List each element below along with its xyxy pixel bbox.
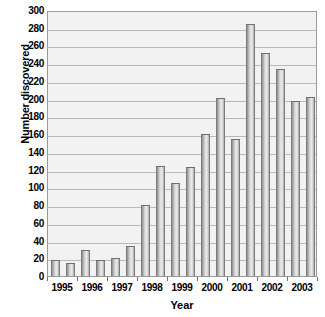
bar: [186, 167, 195, 276]
bar: [141, 205, 150, 276]
bar: [201, 134, 210, 276]
bar: [171, 183, 180, 276]
y-axis-tick-label: 100: [14, 183, 44, 193]
plot-area: [47, 11, 317, 277]
x-axis-tick-mark: [257, 277, 258, 281]
bar: [111, 258, 120, 276]
bar-series: [48, 12, 316, 276]
y-axis-tick-label: 220: [14, 77, 44, 87]
bar: [51, 260, 60, 276]
bar: [246, 24, 255, 276]
x-axis-tick-mark: [47, 277, 48, 281]
bar: [96, 260, 105, 276]
y-axis-tick-label: 120: [14, 166, 44, 176]
x-axis-tick-mark: [197, 277, 198, 281]
x-axis-tick-mark: [167, 277, 168, 281]
x-axis-tick-label: 2003: [282, 282, 322, 293]
bar: [231, 139, 240, 276]
bar: [216, 98, 225, 276]
x-axis-tick-mark: [287, 277, 288, 281]
y-axis-tick-label: 0: [14, 272, 44, 282]
bar: [261, 53, 270, 276]
y-axis-tick-label: 60: [14, 219, 44, 229]
x-axis-title: Year: [47, 299, 317, 311]
bar-chart: Number discovered 3002802602402202001801…: [0, 0, 325, 317]
bar: [66, 263, 75, 276]
y-axis-tick-label: 160: [14, 130, 44, 140]
bar: [126, 246, 135, 276]
x-axis-tick-mark: [107, 277, 108, 281]
x-axis-tick-mark: [137, 277, 138, 281]
y-axis-tick-label: 240: [14, 59, 44, 69]
bar: [276, 69, 285, 276]
y-axis-tick-label: 280: [14, 24, 44, 34]
y-axis-tick-label: 200: [14, 95, 44, 105]
y-axis-tick-label: 300: [14, 6, 44, 16]
y-axis-tick-label: 140: [14, 148, 44, 158]
y-axis-tick-label: 40: [14, 237, 44, 247]
y-axis-tick-label: 180: [14, 112, 44, 122]
x-axis-tick-mark: [317, 277, 318, 281]
bar: [291, 101, 300, 276]
bar: [306, 97, 315, 276]
bar: [156, 166, 165, 276]
x-axis-tick-mark: [227, 277, 228, 281]
y-axis-tick-labels: 3002802602402202001801601401201008060402…: [14, 11, 44, 277]
y-axis-tick-label: 20: [14, 254, 44, 264]
x-axis-tick-mark: [77, 277, 78, 281]
y-axis-tick-label: 260: [14, 41, 44, 51]
x-axis-tick-labels: 199519961997199819992000200120022003: [47, 282, 317, 296]
bar: [81, 250, 90, 276]
y-axis-tick-label: 80: [14, 201, 44, 211]
